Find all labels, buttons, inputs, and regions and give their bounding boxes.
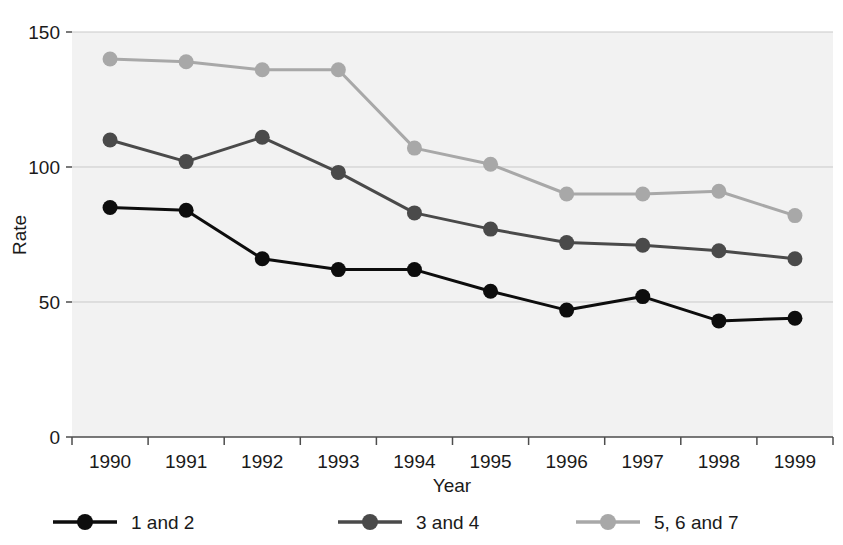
data-point	[787, 311, 802, 326]
data-point	[787, 208, 802, 223]
legend-item-3-and-4[interactable]: 3 and 4	[338, 512, 480, 533]
legend-label: 5, 6 and 7	[654, 512, 739, 533]
data-point	[483, 157, 498, 172]
y-tick-label-0: 0	[49, 427, 60, 448]
data-point	[103, 133, 118, 148]
data-point	[711, 184, 726, 199]
x-axis-title: Year	[433, 475, 472, 496]
chart-legend: 1 and 23 and 45, 6 and 7	[53, 512, 739, 533]
data-point	[255, 62, 270, 77]
legend-marker-icon	[600, 514, 616, 530]
chart-figure: 050100150 199019911992199319941995199619…	[0, 0, 843, 545]
data-point	[559, 303, 574, 318]
x-tick-label-1998: 1998	[698, 451, 740, 472]
data-point	[331, 262, 346, 277]
data-point	[407, 205, 422, 220]
data-point	[331, 62, 346, 77]
line-chart: 050100150 199019911992199319941995199619…	[0, 0, 843, 545]
data-point	[407, 262, 422, 277]
y-tick-label-100: 100	[28, 157, 60, 178]
x-tick-label-1996: 1996	[546, 451, 588, 472]
data-point	[711, 313, 726, 328]
x-tick-label-1997: 1997	[622, 451, 664, 472]
data-point	[331, 165, 346, 180]
plot-background	[72, 32, 833, 437]
data-point	[635, 187, 650, 202]
data-point	[483, 284, 498, 299]
data-point	[407, 141, 422, 156]
data-point	[711, 243, 726, 258]
data-point	[559, 187, 574, 202]
y-tick-label-50: 50	[39, 292, 60, 313]
x-tick-label-1993: 1993	[317, 451, 359, 472]
data-point	[179, 154, 194, 169]
legend-label: 1 and 2	[131, 512, 194, 533]
legend-marker-icon	[77, 514, 93, 530]
data-point	[103, 52, 118, 67]
plot-area-wrapper: 050100150 199019911992199319941995199619…	[0, 0, 843, 545]
y-axis-title: Rate	[9, 215, 30, 255]
legend-item-1-and-2[interactable]: 1 and 2	[53, 512, 194, 533]
x-tick-label-1995: 1995	[469, 451, 511, 472]
x-tick-label-1999: 1999	[774, 451, 816, 472]
legend-marker-icon	[362, 514, 378, 530]
legend-label: 3 and 4	[416, 512, 480, 533]
data-point	[255, 130, 270, 145]
data-point	[179, 54, 194, 69]
data-point	[559, 235, 574, 250]
data-point	[787, 251, 802, 266]
y-axis-tick-labels: 050100150	[28, 22, 72, 448]
data-point	[635, 289, 650, 304]
data-point	[255, 251, 270, 266]
x-axis-ticks	[72, 437, 833, 445]
x-tick-label-1990: 1990	[89, 451, 131, 472]
x-tick-label-1991: 1991	[165, 451, 207, 472]
y-tick-label-150: 150	[28, 22, 60, 43]
x-tick-label-1992: 1992	[241, 451, 283, 472]
data-point	[635, 238, 650, 253]
data-point	[103, 200, 118, 215]
legend-item-5-6-and-7[interactable]: 5, 6 and 7	[576, 512, 739, 533]
x-tick-label-1994: 1994	[393, 451, 436, 472]
data-point	[483, 222, 498, 237]
x-axis-tick-labels: 1990199119921993199419951996199719981999	[89, 451, 816, 472]
data-point	[179, 203, 194, 218]
